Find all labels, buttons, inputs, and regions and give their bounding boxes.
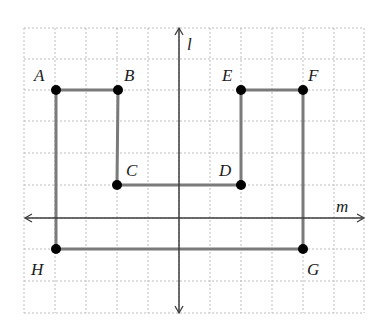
point-B	[113, 85, 123, 95]
point-C	[112, 180, 122, 190]
point-label-E: E	[221, 66, 233, 85]
point-label-G: G	[307, 260, 319, 279]
point-F	[298, 85, 308, 95]
point-label-H: H	[30, 260, 45, 279]
coordinate-figure: lmABCDEFGH	[0, 0, 387, 327]
axis-m-label: m	[336, 197, 348, 216]
point-label-B: B	[124, 66, 135, 85]
point-label-F: F	[307, 66, 319, 85]
point-label-D: D	[218, 161, 232, 180]
point-D	[236, 180, 246, 190]
point-label-C: C	[126, 161, 138, 180]
point-A	[51, 85, 61, 95]
point-H	[51, 244, 61, 254]
labels: lmABCDEFGH	[30, 35, 348, 279]
figure-canvas: lmABCDEFGH	[0, 0, 387, 327]
point-E	[236, 85, 246, 95]
point-label-A: A	[33, 66, 45, 85]
point-G	[298, 244, 308, 254]
axis-l-label: l	[187, 35, 192, 54]
